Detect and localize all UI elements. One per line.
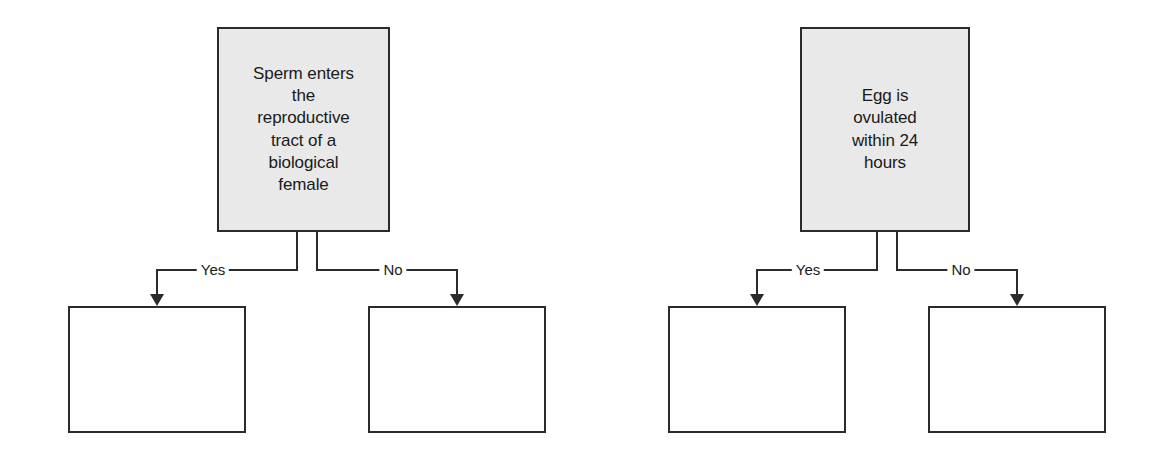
flowchart-group-egg: Egg is ovulated within 24 hours Yes No	[576, 0, 1152, 469]
flowchart-group-sperm: Sperm enters the reproductive tract of a…	[0, 0, 576, 469]
connector-yes-descend-egg	[756, 269, 758, 295]
branch-label-no-sperm: No	[379, 262, 406, 277]
flowchart-canvas: Sperm enters the reproductive tract of a…	[0, 0, 1152, 469]
decision-box-egg[interactable]: Egg is ovulated within 24 hours	[800, 27, 970, 232]
connector-no-descend-sperm	[456, 269, 458, 295]
connector-yes-descend-sperm	[156, 269, 158, 295]
connector-yes-drop-egg	[876, 232, 878, 271]
arrowhead-yes-sperm	[150, 294, 164, 306]
arrowhead-no-egg	[1010, 294, 1024, 306]
outcome-box-egg-yes[interactable]	[668, 306, 846, 433]
branch-label-yes-sperm: Yes	[197, 262, 229, 277]
arrowhead-no-sperm	[450, 294, 464, 306]
decision-box-sperm-label: Sperm enters the reproductive tract of a…	[247, 63, 360, 196]
outcome-box-sperm-no[interactable]	[368, 306, 546, 433]
connector-no-drop-egg	[896, 232, 898, 271]
connector-no-drop-sperm	[316, 232, 318, 271]
branch-label-yes-egg: Yes	[792, 262, 824, 277]
outcome-box-sperm-yes[interactable]	[68, 306, 246, 433]
branch-label-no-egg: No	[947, 262, 974, 277]
decision-box-sperm[interactable]: Sperm enters the reproductive tract of a…	[217, 27, 390, 232]
arrowhead-yes-egg	[750, 294, 764, 306]
connector-yes-drop-sperm	[296, 232, 298, 271]
connector-no-descend-egg	[1016, 269, 1018, 295]
decision-box-egg-label: Egg is ovulated within 24 hours	[846, 85, 924, 173]
outcome-box-egg-no[interactable]	[928, 306, 1106, 433]
